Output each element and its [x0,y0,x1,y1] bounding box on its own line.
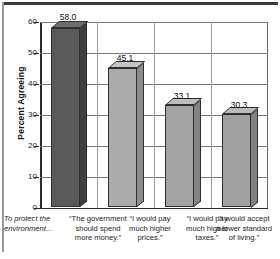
category-separator-2 [154,22,155,208]
x-label-lead-in: To protect the environment… [4,214,60,233]
y-tick-label-0: 0 [15,203,37,212]
y-tick-label-30: 30 [15,110,37,119]
y-tick-label-10: 10 [15,172,37,181]
bar-side [80,22,87,207]
bar-face [108,68,137,207]
bar-face [51,28,80,207]
bar-government-spend-money [51,28,80,207]
top-divider-rule [2,2,278,5]
bar-side [137,62,144,207]
x-axis-line [34,208,268,210]
category-separator-3 [211,22,212,208]
bar-pay-higher-prices [108,68,137,207]
value-label-2: 45.1 [97,53,153,63]
x-label-lead-in-line-1: To protect the [4,214,60,224]
x-label-category-4: “I would accept a lower standard of livi… [208,214,280,243]
bar-side [251,108,258,208]
bar-face [222,114,251,208]
value-label-1: 58.0 [40,12,96,22]
x-label-category-4-line-2: a lower standard [208,224,280,234]
y-tick-label-40: 40 [15,79,37,88]
category-separator-1 [97,22,98,208]
chart-screenshot: Percent Agreeing 60 50 40 30 20 10 0 [0,0,280,259]
x-label-category-4-line-3: of living.” [208,233,280,243]
x-label-category-4-line-1: “I would accept [208,214,280,224]
y-tick-label-20: 20 [15,141,37,150]
value-label-4: 30.3 [211,100,267,110]
y-tick-label-50: 50 [15,48,37,57]
bar-lower-standard-of-living [222,114,251,208]
x-label-lead-in-line-2: environment… [4,224,60,234]
y-tick-label-60: 60 [15,17,37,26]
value-label-3: 33.1 [154,91,210,101]
bar-side [194,99,201,207]
bar-pay-higher-taxes [165,105,194,207]
bar-face [165,105,194,207]
